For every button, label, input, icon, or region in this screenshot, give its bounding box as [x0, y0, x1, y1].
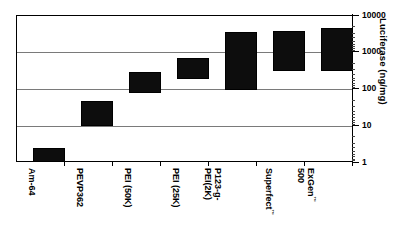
y-major-tick-1 [352, 162, 359, 163]
y-minor-tick [352, 143, 355, 144]
plot-area [16, 15, 352, 162]
x-label-pei-50k: PEI (50K) [123, 168, 133, 234]
y-minor-tick [352, 46, 355, 47]
bar-superfect [273, 31, 305, 71]
y-minor-tick [352, 85, 355, 86]
y-minor-tick [352, 117, 355, 118]
y-minor-tick [352, 87, 355, 88]
x-label-superfect: Superfect™ [264, 168, 277, 234]
y-minor-tick [352, 74, 355, 75]
x-label-line1: P123-g- [213, 168, 223, 234]
y-minor-tick [352, 100, 355, 101]
y-tick-label-1: 1 [362, 158, 367, 167]
bar-pevp362 [81, 101, 113, 126]
bar-exgen-500 [321, 28, 353, 71]
y-minor-tick [352, 156, 355, 157]
y-major-tick-10000 [352, 15, 359, 16]
bar-pei-50k [129, 72, 161, 93]
x-label-pei-25k: PEI (25K) [171, 168, 181, 234]
y-minor-tick [352, 147, 355, 148]
xtick-3 [160, 162, 161, 166]
x-label-line1: ExGen™ [306, 168, 319, 234]
xtick-6 [304, 162, 305, 166]
y-minor-tick [352, 41, 355, 42]
y-minor-tick [352, 151, 355, 152]
y-minor-tick [352, 37, 355, 38]
x-label-line2: PEI(2K) [203, 168, 213, 234]
bar-pei-25k [177, 58, 209, 79]
y-major-tick-100 [352, 88, 359, 89]
bar-p123-g-pei-2k [225, 32, 257, 90]
bar-am-64 [33, 148, 65, 162]
xtick-5 [256, 162, 257, 166]
xtick-1 [64, 162, 65, 166]
y-minor-tick [352, 111, 355, 112]
y-axis-title: Luciferase (ng/mg) [375, 18, 389, 160]
trademark-icon: ™ [269, 210, 275, 216]
x-label-p123-g-pei-2k: P123-g- PEI(2K) [203, 168, 222, 234]
luciferase-expression-chart: 10000 1000 100 10 1 Luciferase (ng/mg) A… [0, 0, 418, 235]
y-minor-tick [352, 83, 355, 84]
x-label-line1: PEVP362 [75, 168, 85, 207]
x-label-exgen-500: ExGen™ 500 [296, 168, 318, 234]
y-minor-tick [352, 48, 355, 49]
x-label-line2: 500 [296, 168, 306, 234]
y-minor-tick [352, 78, 355, 79]
xtick-4 [208, 162, 209, 166]
y-minor-tick [352, 159, 355, 160]
y-minor-tick [352, 50, 355, 51]
y-minor-tick [352, 120, 355, 121]
x-label-line1: PEI (25K) [171, 168, 181, 208]
y-tick-label-10: 10 [362, 121, 371, 130]
y-minor-tick [352, 44, 355, 45]
x-label-line1: Am-64 [27, 168, 37, 196]
trademark-icon: ™ [311, 197, 317, 203]
y-minor-tick [352, 160, 355, 161]
y-minor-tick [352, 136, 355, 137]
y-minor-tick [352, 63, 355, 64]
xtick-2 [112, 162, 113, 166]
y-minor-tick [352, 114, 355, 115]
y-minor-tick [352, 154, 355, 155]
gridline-10 [17, 126, 352, 127]
x-label-pevp362: PEVP362 [75, 168, 85, 234]
y-major-tick-10 [352, 125, 359, 126]
x-label-line1: Superfect [264, 168, 274, 210]
y-minor-tick [352, 122, 355, 123]
y-minor-tick [352, 69, 355, 70]
y-minor-tick [352, 124, 355, 125]
y-minor-tick [352, 106, 355, 107]
y-minor-tick [352, 80, 355, 81]
x-label-line1: PEI (50K) [123, 168, 133, 208]
gridline-100 [17, 89, 352, 90]
x-label-am-64: Am-64 [27, 168, 37, 234]
y-minor-tick [352, 33, 355, 34]
y-minor-tick [352, 26, 355, 27]
